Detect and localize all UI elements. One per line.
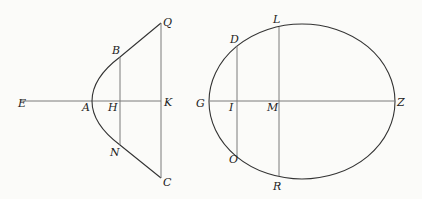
label-E: E xyxy=(17,97,26,110)
geometry-diagram: E A H K B Q N C G I M Z D L O R xyxy=(0,0,422,199)
label-C: C xyxy=(163,176,172,189)
label-K: K xyxy=(163,96,173,109)
ellipse-figure: G I M Z D L O R xyxy=(196,13,405,193)
label-I: I xyxy=(228,101,234,114)
label-D: D xyxy=(229,33,239,46)
label-G: G xyxy=(196,97,205,110)
label-A: A xyxy=(81,101,90,114)
label-Q: Q xyxy=(163,16,172,29)
label-L: L xyxy=(272,13,280,26)
conic-sections-figure: E A H K B Q N C G I M Z D L O R xyxy=(0,0,422,199)
parabola-figure: E A H K B Q N C xyxy=(17,16,173,189)
label-B: B xyxy=(111,44,120,57)
label-Z: Z xyxy=(396,96,405,109)
label-N: N xyxy=(109,146,120,159)
label-M: M xyxy=(266,101,279,114)
label-H: H xyxy=(107,101,118,114)
label-R: R xyxy=(272,180,281,193)
label-O: O xyxy=(229,153,238,166)
